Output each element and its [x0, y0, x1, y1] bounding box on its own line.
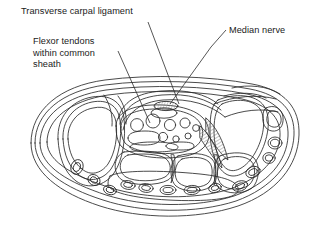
leader-median-nerve: [211, 30, 226, 47]
flexor-tendon: [164, 119, 175, 130]
flexor-tendon: [193, 125, 200, 132]
flexor-tendon: [185, 133, 191, 139]
flexor-tendon: [131, 119, 144, 132]
median-nerve: [151, 101, 178, 118]
leader-median-nerve-ext: [170, 47, 211, 104]
label-transverse-carpal-ligament: Transverse carpal ligament: [21, 6, 133, 18]
label-flexor-tendons-line2: within common: [33, 48, 95, 58]
flexor-tendon: [128, 131, 160, 145]
flexor-tendon: [180, 118, 190, 128]
radial-compartment: [58, 96, 125, 185]
flexor-tendon: [130, 142, 178, 152]
flexor-tendon: [173, 136, 179, 142]
flexor-tendon-group: [116, 105, 209, 158]
figure-canvas: Transverse carpal ligament Flexor tendon…: [0, 0, 320, 240]
label-flexor-tendons: Flexor tendonswithin commonsheath: [33, 36, 95, 71]
flexor-tendon: [166, 142, 194, 150]
label-median-nerve: Median nerve: [229, 25, 285, 37]
label-flexor-tendons-line1: Flexor tendons: [33, 36, 94, 46]
label-flexor-tendons-line3: sheath: [33, 59, 61, 69]
